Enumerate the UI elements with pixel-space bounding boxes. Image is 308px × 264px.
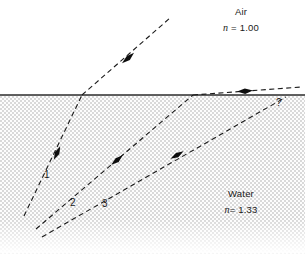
ray-3-label: 3 <box>102 199 108 209</box>
air-refractive-index: n = 1.00 <box>196 21 286 35</box>
unknown-ray-question-mark: ? <box>276 98 282 108</box>
water-medium-name: Water <box>196 188 286 201</box>
ray-2-air-arrowhead <box>237 88 253 95</box>
ray-1-air-arrowhead <box>121 51 136 65</box>
ray-2-label: 2 <box>70 198 76 208</box>
water-index-value: = 1.33 <box>230 204 258 215</box>
air-medium-name: Air <box>196 6 286 19</box>
ray-1-label: 1 <box>44 170 50 180</box>
air-index-symbol: n <box>223 22 228 33</box>
water-medium-label: Water n= 1.33 <box>196 188 286 217</box>
air-index-value: = 1.00 <box>231 22 259 33</box>
water-refractive-index: n= 1.33 <box>196 203 286 217</box>
ray-1-refracted-segment <box>82 18 170 95</box>
diagram-canvas <box>0 0 308 264</box>
air-medium-label: Air n = 1.00 <box>196 6 286 35</box>
refraction-diagram: Air n = 1.00 Water n= 1.33 1 2 3 ? <box>0 0 308 264</box>
